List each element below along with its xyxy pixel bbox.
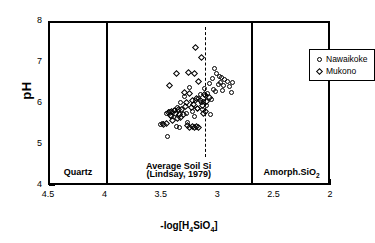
data-point-mukono [191,70,198,77]
data-point-nawaikoke [229,90,234,95]
x-tick-label: 2.5 [259,189,289,199]
data-point-nawaikoke [192,114,197,119]
y-tick-label: 8 [26,15,42,25]
legend: NawaikokeMukono [309,49,375,81]
plot-area: QuartzAverage Soil Si(Lindsay, 1979)Amor… [50,23,328,183]
y-tick-label: 5 [26,138,42,148]
y-tick-label: 6 [26,97,42,107]
legend-label: Nawaikoke [326,54,368,64]
x-axis-title-text: -log[H4SiO4] [160,220,217,231]
x-tick-label: 2 [315,189,345,199]
data-point-nawaikoke [216,82,221,87]
quartz-boundary [106,23,108,183]
x-axis-title: -log[H4SiO4] [48,220,330,233]
x-tick [330,179,331,185]
data-point-mukono [192,44,199,51]
x-tick-label: 3.5 [146,189,176,199]
legend-label: Mukono [326,66,356,76]
data-point-nawaikoke [213,89,218,94]
data-point-nawaikoke [207,81,212,86]
data-point-mukono [166,82,173,89]
data-point-nawaikoke [202,86,207,91]
amorphous-silica-region-label: Amorph.SiO2 [263,167,319,181]
data-point-nawaikoke [212,66,217,71]
data-point-nawaikoke [187,85,192,90]
y-tick-label: 4 [26,179,42,189]
y-axis-title: pH [19,61,34,121]
data-point-mukono [173,69,180,76]
data-point-nawaikoke [208,112,213,117]
diamond-marker-icon [313,65,325,77]
data-point-mukono [195,78,202,85]
data-point-nawaikoke [165,134,170,139]
amorphous-silica-boundary [251,23,253,183]
x-tick-label: 4 [89,189,119,199]
circle-marker-icon [313,53,325,65]
x-tick-label: 4.5 [33,189,63,199]
average-soil-si-label-line2: (Lindsay, 1979) [147,169,211,180]
data-point-nawaikoke [177,125,182,130]
plot-frame: QuartzAverage Soil Si(Lindsay, 1979)Amor… [48,21,330,185]
quartz-region-label: Quartz [64,167,93,178]
x-tick-label: 3 [202,189,232,199]
data-point-nawaikoke [227,84,232,89]
legend-item-mukono: Mukono [313,65,372,77]
y-tick [49,185,55,186]
y-tick-label: 7 [26,56,42,66]
data-point-nawaikoke [220,88,225,93]
legend-item-nawaikoke: Nawaikoke [313,53,372,65]
